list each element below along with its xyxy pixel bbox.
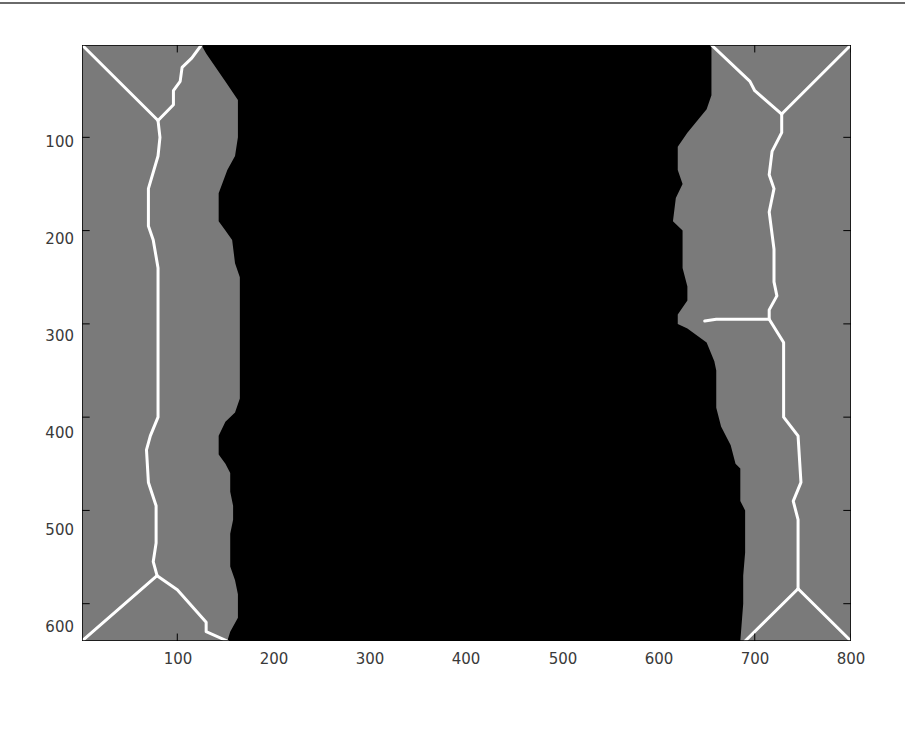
x-tick-label: 100	[164, 650, 193, 668]
x-tick-label: 700	[741, 650, 770, 668]
figure: 100 200 300 400 500 600 700 800 100 200 …	[0, 0, 905, 738]
image-plot	[82, 45, 851, 641]
y-tick-label: 500	[24, 521, 74, 539]
y-tick-label: 100	[24, 133, 74, 151]
y-tick-label: 200	[24, 230, 74, 248]
x-tick-label: 800	[837, 650, 866, 668]
plot-axes	[82, 45, 851, 641]
y-tick-label: 300	[24, 327, 74, 345]
x-tick-label: 300	[356, 650, 385, 668]
y-tick-label: 400	[24, 424, 74, 442]
x-tick-label: 500	[549, 650, 578, 668]
x-tick-label: 200	[260, 650, 289, 668]
y-tick-label: 600	[24, 618, 74, 636]
x-tick-label: 600	[645, 650, 674, 668]
top-divider	[0, 2, 905, 4]
x-tick-label: 400	[452, 650, 481, 668]
